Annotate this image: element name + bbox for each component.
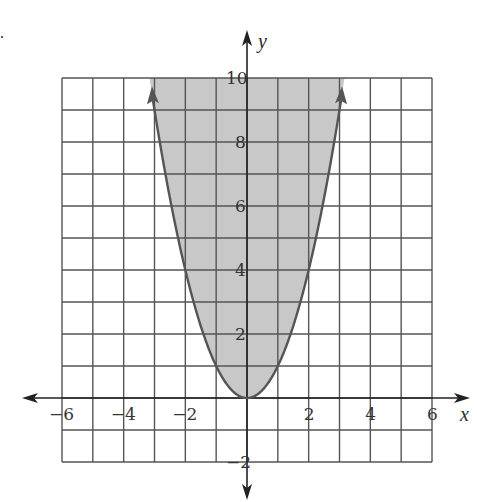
- x-tick-label: 4: [365, 404, 376, 424]
- x-tick-label: −6: [49, 404, 74, 424]
- x-tick-label: 6: [427, 404, 438, 424]
- y-tick-label: 6: [235, 196, 246, 216]
- y-tick-label: −2: [226, 452, 251, 472]
- x-tick-label: 2: [304, 404, 315, 424]
- x-axis-label: x: [459, 403, 469, 425]
- y-tick-label: 10: [226, 68, 248, 88]
- y-axis-label: y: [256, 30, 267, 53]
- x-tick-label: −2: [172, 404, 197, 424]
- y-tick-label: 8: [235, 132, 246, 152]
- parabola-graph: . −6−4−2246−2246810 y x: [0, 0, 477, 502]
- y-tick-label: 2: [235, 324, 246, 344]
- figure-number: .: [0, 24, 4, 41]
- x-tick-label: −4: [111, 404, 136, 424]
- y-tick-label: 4: [235, 260, 246, 280]
